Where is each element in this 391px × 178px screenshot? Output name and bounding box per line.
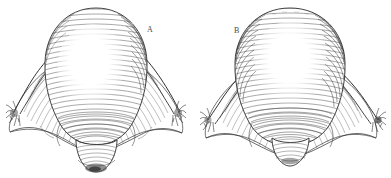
fundus-highlight-a <box>57 24 129 112</box>
figure-label-a: A <box>147 26 153 34</box>
engraving-illustration <box>0 0 391 178</box>
anatomical-figure-plate: A B <box>0 0 391 178</box>
figure-label-b: B <box>234 27 240 35</box>
fundus-highlight-b <box>251 21 331 115</box>
